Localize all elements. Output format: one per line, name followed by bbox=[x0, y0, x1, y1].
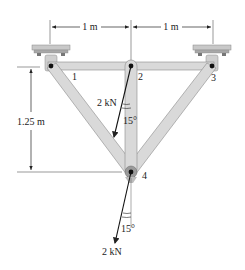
joint-label-1: 1 bbox=[72, 71, 77, 82]
top-dimension-right: 1 m bbox=[133, 21, 211, 32]
height-dimension: 1.25 m bbox=[17, 69, 45, 170]
top-dimension-left: 1 m bbox=[52, 21, 129, 32]
force-label-lower: 2 kN bbox=[102, 246, 122, 257]
truss-diagram: 1 m 1 m 1.25 m bbox=[0, 0, 245, 270]
joint-3-pin bbox=[210, 64, 215, 69]
joint-label-2: 2 bbox=[138, 71, 143, 82]
force-label-upper: 2 kN bbox=[97, 97, 117, 108]
dimension-label-top-right: 1 m bbox=[163, 21, 179, 32]
joint-label-3: 3 bbox=[211, 72, 216, 83]
angle-label-upper: 15° bbox=[123, 115, 137, 126]
angle-label-lower: 15° bbox=[121, 223, 135, 234]
joint-1-pin bbox=[49, 64, 54, 69]
load-joint-4: 15° 2 kN bbox=[102, 172, 135, 257]
dimension-label-height: 1.25 m bbox=[17, 116, 45, 127]
dimension-label-top-left: 1 m bbox=[82, 21, 98, 32]
joint-label-4: 4 bbox=[142, 170, 147, 181]
